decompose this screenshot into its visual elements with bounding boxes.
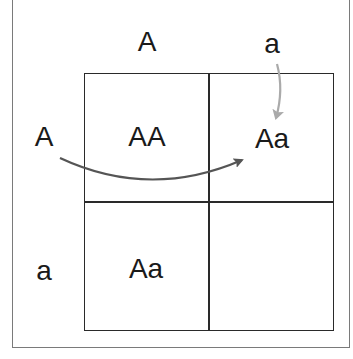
arrow-row-A-to-Aa-icon	[60, 158, 242, 180]
arrow-col-a-to-Aa-icon	[276, 64, 280, 118]
arrows-layer	[0, 0, 353, 359]
